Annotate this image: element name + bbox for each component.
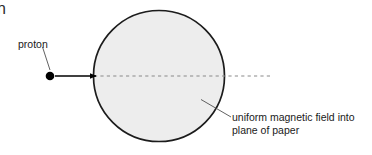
- proton-leader-line: [43, 47, 51, 70]
- magnetic-field-caption: uniform magnetic field into plane of pap…: [232, 111, 355, 137]
- proton-particle-dot: [46, 72, 55, 81]
- magnetic-field-caption-line-2: plane of paper: [232, 124, 355, 137]
- physics-diagram-canvas: n proton uniform magnetic field into pla…: [0, 0, 372, 155]
- magnetic-field-caption-line-1: uniform magnetic field into: [232, 111, 355, 124]
- proton-label: proton: [18, 38, 48, 50]
